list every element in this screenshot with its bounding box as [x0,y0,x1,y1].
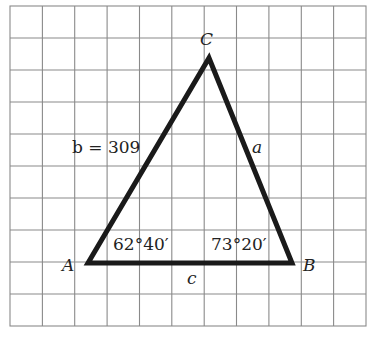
angle-a-label: 62°40′ [113,236,169,253]
angle-b-label: 73°20′ [211,236,267,253]
side-a-label: a [252,139,262,156]
side-c-label: c [187,270,197,287]
vertex-c-label: C [200,31,213,48]
vertex-b-label: B [303,257,316,274]
vertex-a-label: A [62,257,74,274]
triangle [88,58,292,263]
triangle-diagram [0,0,367,339]
side-b-label: b = 309 [72,139,140,156]
